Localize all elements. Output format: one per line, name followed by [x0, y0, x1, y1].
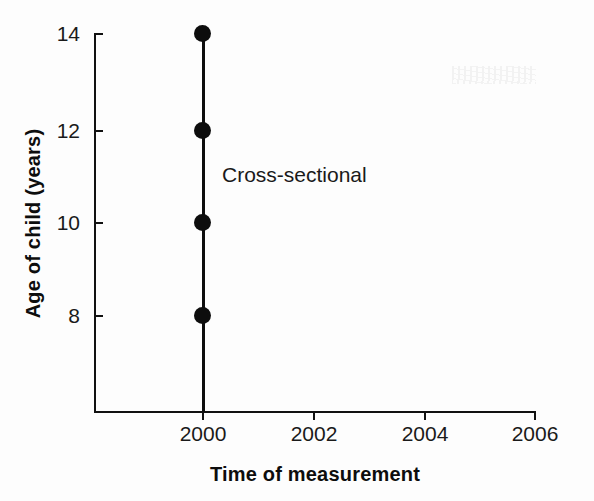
x-axis-tick-2004 — [424, 411, 426, 420]
y-axis-tick-12 — [94, 130, 103, 132]
y-axis-title-wrap: Age of child (years) — [0, 0, 40, 501]
x-axis-tick-label-2000: 2000 — [158, 423, 248, 444]
x-axis-tick-2000 — [202, 411, 204, 420]
y-axis-tick-label-14: 14 — [40, 23, 80, 44]
data-point — [194, 307, 211, 324]
y-axis-tick-label-8: 8 — [40, 305, 80, 326]
y-axis-tick-8 — [94, 315, 103, 317]
chart-figure: 14 12 10 8 Age of child (years) 2000 200… — [0, 0, 594, 501]
data-point — [194, 25, 211, 42]
y-axis-title: Age of child (years) — [22, 54, 45, 394]
x-axis-tick-label-2004: 2004 — [380, 423, 470, 444]
series-annotation-cross-sectional: Cross-sectional — [222, 162, 367, 187]
x-axis-title: Time of measurement — [94, 463, 536, 486]
y-axis-tick-10 — [94, 222, 103, 224]
y-axis-tick-14 — [94, 33, 103, 35]
x-axis-tick-label-2006: 2006 — [490, 423, 580, 444]
scan-artifact — [452, 66, 536, 84]
y-axis-tick-label-12: 12 — [40, 120, 80, 141]
y-axis-tick-label-10: 10 — [40, 212, 80, 233]
x-axis-tick-label-2002: 2002 — [269, 423, 359, 444]
data-point — [194, 122, 211, 139]
x-axis-tick-2006 — [534, 411, 536, 420]
x-axis-line — [94, 411, 536, 413]
data-point — [194, 214, 211, 231]
x-axis-tick-2002 — [313, 411, 315, 420]
